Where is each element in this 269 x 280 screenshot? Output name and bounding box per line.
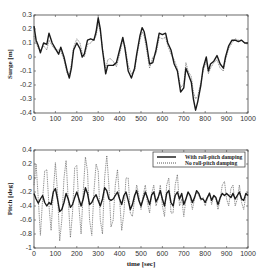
x-tick-label: 400 [114,250,126,257]
x-tick-label: 400 [114,115,126,122]
y-tick-label: -0.6 [20,216,32,223]
time-xlabel: time [sec] [127,260,156,268]
x-tick-label: 600 [157,250,169,257]
x-tick-label: 200 [71,250,83,257]
x-tick-label: 700 [178,250,190,257]
y-tick-label: -1 [26,244,32,251]
x-tick-label: 600 [157,115,169,122]
x-tick-label: 0 [32,250,36,257]
x-tick-label: 100 [50,115,62,122]
y-tick-label: -0.4 [20,202,32,209]
y-tick-label: 0 [28,53,32,60]
legend-dotted-label: No roll-pitch damping [185,160,237,166]
x-tick-label: 500 [135,250,147,257]
x-tick-label: 100 [50,250,62,257]
y-tick-label: 0.2 [22,160,32,167]
y-tick-label: 0 [28,174,32,181]
x-tick-label: 200 [71,115,83,122]
x-tick-label: 900 [221,250,233,257]
x-tick-label: 1000 [240,115,256,122]
pitch-plot: 010020030040050060070080090010000.40.20-… [6,146,256,268]
y-tick-label: 0.1 [22,39,32,46]
y-tick-label: -0.2 [20,81,32,88]
x-tick-label: 1000 [240,250,256,257]
y-tick-label: -0.4 [20,109,32,116]
y-tick-label: -0.3 [20,95,32,102]
y-tick-label: 0.4 [22,146,32,153]
x-tick-label: 700 [178,115,190,122]
x-tick-label: 300 [92,115,104,122]
figure: 010020030040050060070080090010000.30.20.… [0,0,269,280]
y-tick-label: -0.8 [20,230,32,237]
surge-plot: 010020030040050060070080090010000.30.20.… [6,11,256,122]
x-tick-label: 0 [32,115,36,122]
x-tick-label: 500 [135,115,147,122]
pitch-ylabel: Pitch [deg] [6,183,14,215]
x-tick-label: 900 [221,115,233,122]
x-tick-label: 300 [92,250,104,257]
x-tick-label: 800 [199,250,211,257]
legend: With roll-pitch damping No roll-pitch da… [153,152,245,167]
y-tick-label: -0.2 [20,188,32,195]
surge-ylabel: Surge [m] [6,49,14,79]
y-tick-label: -0.1 [20,67,32,74]
x-tick-label: 800 [199,115,211,122]
y-tick-label: 0.2 [22,25,32,32]
y-tick-label: 0.3 [22,11,32,18]
